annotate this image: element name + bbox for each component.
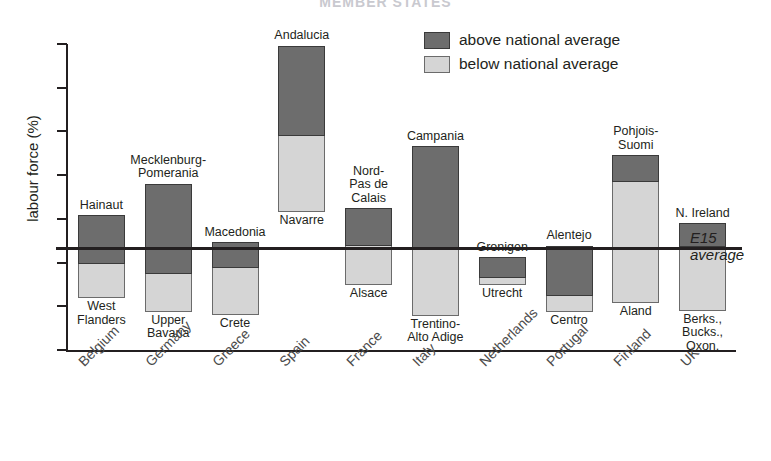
bar-segment-above-average[interactable] [612,155,659,182]
bar-label-high-region: Andalucia [236,29,368,43]
bar-segment-above-average[interactable] [278,46,325,136]
chart-title: MEMBER STATES [0,0,771,10]
y-axis-tick-mark [57,87,67,89]
y-axis-tick-mark [57,43,67,45]
bar-segment-below-average[interactable] [345,246,392,285]
bar-segment-below-average[interactable] [412,250,459,316]
bar-group[interactable]: HainautWest Flanders [78,44,125,350]
y-axis-tick-mark [57,349,67,351]
bar-label-low-region: Berks., Bucks., Oxon. [637,313,769,354]
chart-canvas: MEMBER STATES above national average bel… [0,0,771,461]
bar-group[interactable]: GronigenUtrecht [479,44,526,350]
y-axis-tick-mark [57,262,67,264]
plot-area: HainautWest FlandersMecklenburg- Pomeran… [68,44,736,350]
bar-group[interactable]: Mecklenburg- PomeraniaUpper Bavaria [145,44,192,350]
bar-segment-above-average[interactable] [412,146,459,250]
bar-segment-above-average[interactable] [78,215,125,264]
bar-group[interactable]: Nord- Pas de CalaisAlsace [345,44,392,350]
y-axis-ticks: 05101520253035 [0,0,70,461]
y-axis-tick-mark [57,218,67,220]
y-axis-tick-mark [57,130,67,132]
bar-group[interactable]: MacedoniaCrete [212,44,259,350]
e15-average-line [56,247,742,250]
e15-average-label: E15 average [690,229,766,263]
bar-group[interactable]: Pohjois- SuomiAland [612,44,659,350]
bar-segment-above-average[interactable] [345,208,392,246]
bar-segment-above-average[interactable] [546,246,593,296]
e15-average-label-line2: average [690,246,766,263]
e15-average-label-line1: E15 [690,229,766,246]
bar-label-high-region: N. Ireland [637,207,769,221]
bar-segment-below-average[interactable] [145,274,192,312]
bar-segment-above-average[interactable] [479,257,526,278]
bar-segment-below-average[interactable] [78,264,125,298]
bar-segment-below-average[interactable] [212,268,259,315]
bar-group[interactable]: CampaniaTrentino- Alto Adige [412,44,459,350]
bar-group[interactable]: N. IrelandBerks., Bucks., Oxon. [679,44,726,350]
y-axis-tick-mark [57,174,67,176]
bar-segment-below-average[interactable] [479,278,526,285]
bar-segment-below-average[interactable] [612,182,659,303]
